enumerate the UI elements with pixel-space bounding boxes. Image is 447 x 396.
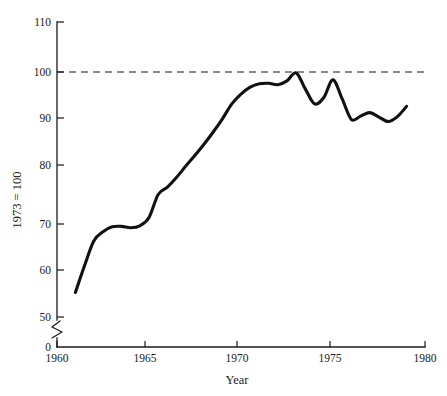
x-axis-title: Year — [225, 373, 249, 387]
y-axis-title: 1973 = 100 — [10, 171, 24, 228]
x-tick-label-1970: 1970 — [226, 352, 249, 364]
line-chart: 110 100 90 80 70 60 50 0 1960 1965 1970 … — [0, 0, 447, 396]
y-tick-label-100: 100 — [34, 66, 52, 78]
x-tick-label-1980: 1980 — [414, 352, 437, 364]
x-tick-label-1965: 1965 — [134, 352, 157, 364]
y-tick-label-90: 90 — [40, 112, 52, 124]
y-tick-label-80: 80 — [40, 159, 52, 171]
y-tick-marks — [57, 22, 64, 317]
chart-figure: 110 100 90 80 70 60 50 0 1960 1965 1970 … — [0, 0, 447, 396]
x-tick-label-1960: 1960 — [46, 352, 69, 364]
y-tick-label-110: 110 — [34, 16, 51, 28]
y-tick-label-50: 50 — [40, 311, 52, 323]
x-tick-marks — [145, 341, 330, 347]
y-tick-label-60: 60 — [40, 264, 52, 276]
series-line-index — [75, 73, 406, 293]
y-tick-label-70: 70 — [40, 218, 52, 230]
y-axis-break-icon — [52, 321, 62, 338]
x-tick-label-1975: 1975 — [319, 352, 342, 364]
